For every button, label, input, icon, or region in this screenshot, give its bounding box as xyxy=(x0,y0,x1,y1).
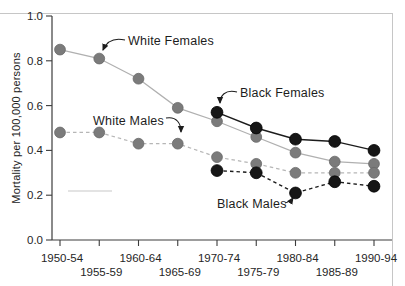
data-point-black-females xyxy=(290,133,302,145)
annotation-white-females: White Females xyxy=(128,34,214,48)
data-point-black-males xyxy=(250,167,262,179)
y-tick-label: 0.6 xyxy=(27,100,43,112)
data-point-white-males xyxy=(212,152,223,163)
y-tick-label: 1.0 xyxy=(27,10,43,22)
data-point-white-females xyxy=(133,73,144,84)
data-point-white-females xyxy=(290,147,301,158)
x-tick-label: 1985-89 xyxy=(316,266,358,278)
data-point-white-females xyxy=(55,44,66,55)
data-point-white-females xyxy=(172,102,183,113)
data-point-white-females xyxy=(94,53,105,64)
y-tick-label: 0.4 xyxy=(27,144,44,156)
annotation-black-males: Black Males xyxy=(217,197,287,211)
annotation-arrow-white-males xyxy=(166,118,181,132)
data-point-black-females xyxy=(368,145,380,157)
annotation-white-males: White Males xyxy=(93,114,164,128)
y-tick-label: 0.2 xyxy=(27,189,43,201)
data-point-white-females xyxy=(329,156,340,167)
x-tick-label: 1955-59 xyxy=(80,266,122,278)
x-tick-label: 1965-69 xyxy=(159,266,201,278)
data-point-black-males xyxy=(290,187,302,199)
annotation-arrow-white-females xyxy=(103,39,125,50)
y-tick-label: 0.0 xyxy=(27,234,43,246)
y-tick-label: 0.8 xyxy=(27,55,43,67)
x-tick-label: 1990-94 xyxy=(355,252,398,264)
data-point-white-males xyxy=(172,138,183,149)
data-point-black-females xyxy=(329,136,341,148)
x-tick-label: 1975-79 xyxy=(237,266,279,278)
data-point-black-females xyxy=(211,106,223,118)
annotation-arrow-black-females xyxy=(220,91,237,103)
data-point-black-males xyxy=(211,165,223,177)
x-tick-label: 1960-64 xyxy=(119,252,162,264)
x-tick-label: 1980-84 xyxy=(276,252,319,264)
data-point-white-males xyxy=(369,167,380,178)
data-point-black-males xyxy=(368,180,380,192)
data-point-black-males xyxy=(329,176,341,188)
data-point-white-males xyxy=(55,127,66,138)
data-point-white-males xyxy=(94,127,105,138)
mortality-trend-figure: 0.00.20.40.60.81.01950-541955-591960-641… xyxy=(0,0,405,286)
x-tick-label: 1950-54 xyxy=(41,252,84,264)
data-point-black-females xyxy=(250,122,262,134)
data-point-white-males xyxy=(133,138,144,149)
annotation-black-females: Black Females xyxy=(240,86,325,100)
y-axis-title: Mortality per 100,000 persons xyxy=(10,48,22,208)
x-tick-label: 1970-74 xyxy=(198,252,241,264)
data-point-white-males xyxy=(290,167,301,178)
